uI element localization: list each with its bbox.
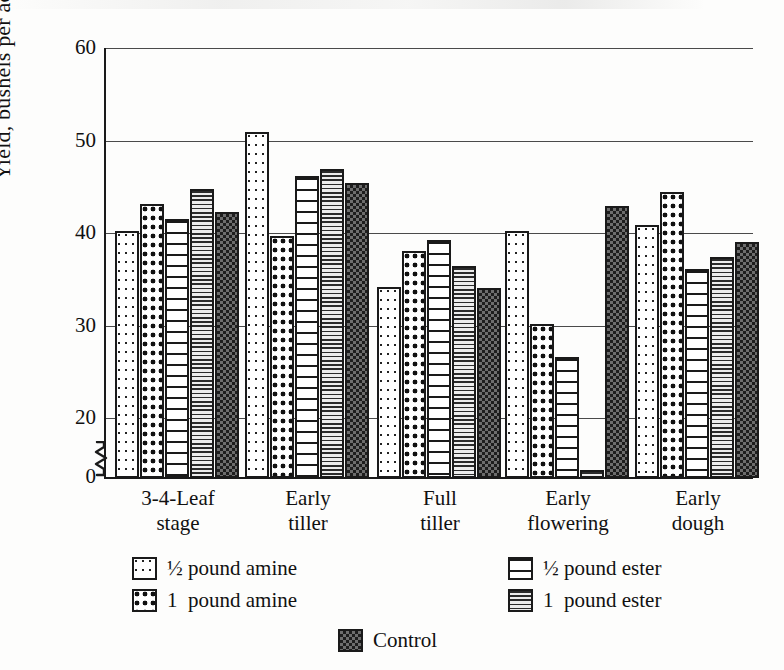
bar[interactable]	[635, 225, 659, 478]
y-axis-tick: 30	[48, 315, 96, 336]
y-axis-title: Yield, bushels per acre	[0, 0, 16, 180]
bar-group	[635, 48, 759, 478]
bar[interactable]	[530, 324, 554, 478]
bar[interactable]	[660, 192, 684, 478]
y-axis-tick: 50	[48, 130, 96, 151]
bar[interactable]	[215, 212, 239, 478]
legend-item[interactable]: 1 pound amine	[132, 588, 297, 613]
legend-swatch-fine-stripes	[508, 589, 533, 612]
category-label-line: Early	[613, 486, 783, 511]
bar[interactable]	[505, 231, 529, 478]
bar[interactable]	[580, 470, 604, 478]
y-axis-tick-label: 30	[56, 315, 96, 336]
y-axis-tick-label: 60	[56, 37, 96, 58]
bar[interactable]	[452, 266, 476, 478]
bar-chart: Yield, bushels per acre 02030405060 3-4-…	[0, 0, 784, 670]
bar[interactable]	[710, 257, 734, 478]
legend-swatch-checker	[338, 629, 363, 652]
bar-group	[505, 48, 629, 478]
legend-item[interactable]: ½ pound amine	[132, 556, 297, 581]
legend-label: 1 pound ester	[543, 588, 661, 613]
bar[interactable]	[605, 206, 629, 478]
bar[interactable]	[270, 236, 294, 478]
bar[interactable]	[295, 176, 319, 478]
legend-item[interactable]: 1 pound ester	[508, 588, 661, 613]
bar[interactable]	[245, 132, 269, 478]
y-axis-tick-label: 0	[56, 466, 96, 487]
bar[interactable]	[190, 189, 214, 478]
legend-swatch-heavy-dots	[132, 589, 157, 612]
legend-item[interactable]: ½ pound ester	[508, 556, 661, 581]
bar-group	[377, 48, 501, 478]
legend-swatch-light-dots	[132, 557, 157, 580]
bar[interactable]	[402, 251, 426, 478]
bar[interactable]	[377, 287, 401, 478]
legend-label: ½ pound ester	[543, 556, 661, 581]
bar[interactable]	[427, 240, 451, 478]
y-axis-tick-label: 50	[56, 130, 96, 151]
legend-label: ½ pound amine	[167, 556, 297, 581]
legend-swatch-wide-stripes	[508, 557, 533, 580]
y-axis-tick: 0	[48, 466, 96, 487]
bar[interactable]	[140, 204, 164, 478]
bar-group	[115, 48, 239, 478]
y-axis-tick-label: 20	[56, 407, 96, 428]
bar[interactable]	[165, 219, 189, 479]
x-axis-category-label: Earlydough	[613, 486, 783, 536]
bar[interactable]	[477, 288, 501, 478]
bar-group	[245, 48, 369, 478]
bar[interactable]	[555, 357, 579, 478]
bar[interactable]	[115, 231, 139, 478]
legend-label: Control	[373, 628, 437, 653]
plot-area	[105, 48, 753, 478]
bar[interactable]	[345, 183, 369, 478]
bar[interactable]	[685, 269, 709, 478]
y-axis-tick-label: 40	[56, 222, 96, 243]
bar[interactable]	[735, 242, 759, 478]
legend-item[interactable]: Control	[338, 628, 437, 653]
y-axis-tick: 40	[48, 222, 96, 243]
category-label-line: dough	[613, 511, 783, 536]
legend-label: 1 pound amine	[167, 588, 297, 613]
y-axis-tick: 60	[48, 37, 96, 58]
bar[interactable]	[320, 169, 344, 478]
y-axis-tick: 20	[48, 407, 96, 428]
